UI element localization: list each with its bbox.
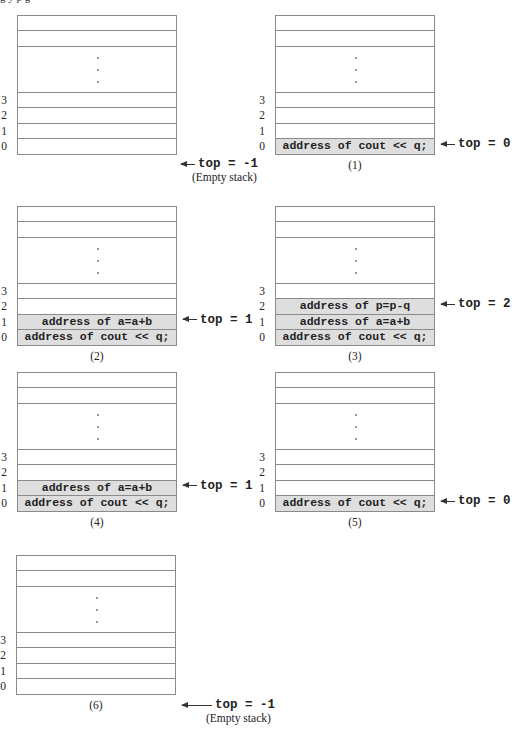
top-pointer: top = -1 [181,157,258,171]
row-index-label: 0 [257,496,267,511]
top-text-fragment: g y p g [0,0,512,3]
stack-cell-2 [18,465,176,480]
stack-cell-2 [18,108,176,123]
stack-cell-3 [17,633,175,648]
row-index-label: 0 [257,139,267,154]
stack-slot-top-1 [18,207,176,222]
ellipsis-dots-icon [276,404,434,450]
top-pointer: top = 0 [441,494,511,508]
top-pointer: top = -1 [182,698,275,712]
row-index-label: 3 [0,633,8,648]
row-index-label: 3 [257,284,267,299]
row-index-label: 1 [0,664,8,679]
top-value-label: top = -1 [215,698,275,712]
top-pointer: top = 1 [183,313,253,327]
empty-stack-note: (Empty stack) [192,171,257,183]
ellipsis-dots-icon [18,238,176,284]
stack-slot-top-2 [17,571,175,586]
stack-panel-1: address of cout << q; 3210(1)top = 0 [263,15,512,215]
row-index-label: 1 [0,124,9,139]
stack-slot-top-2 [276,31,434,46]
top-value-label: top = 1 [200,313,253,327]
stack-slot-top-2 [276,222,434,237]
stack-panel-4: address of a=a+b address of cout << q; 3… [5,372,265,572]
panel-caption: (1) [275,159,435,171]
panel-caption: (4) [17,516,177,528]
left-arrow-icon [441,144,455,145]
stack-cell-1 [276,124,434,139]
top-value-label: top = 0 [458,137,511,151]
stack-panel-6: 3210(6)(Empty stack)top = -1 [4,555,264,729]
stack-cell-1 [17,664,175,679]
ellipsis-dots-icon [18,47,176,93]
stack-slot-top-2 [18,31,176,46]
stack-cell-0: address of cout << q; [276,330,434,345]
stack-panel-5: address of cout << q; 3210(5)top = 0 [263,372,512,572]
top-value-label: top = 0 [458,494,511,508]
stack-slot-top-1 [18,373,176,388]
row-index-label: 3 [257,93,267,108]
row-index-label: 3 [0,450,9,465]
stack-box: address of a=a+b address of cout << q; [17,206,177,346]
left-arrow-icon [182,705,212,706]
row-index-label: 0 [257,330,267,345]
row-index-label: 0 [0,330,9,345]
stack-cell-3 [18,284,176,299]
row-index-label: 3 [257,450,267,465]
top-value-label: top = -1 [198,157,258,171]
panel-caption: (5) [275,516,435,528]
stack-cell-0: address of cout << q; [18,330,176,345]
stack-cell-2 [18,299,176,314]
stack-box: address of a=a+b address of cout << q; [17,372,177,512]
stack-cell-0 [18,139,176,154]
top-pointer: top = 0 [441,137,511,151]
stack-box: address of p=p-q address of a=a+b addres… [275,206,435,346]
empty-stack-note: (Empty stack) [206,712,271,724]
stack-slot-top-1 [276,373,434,388]
stack-cell-2: address of p=p-q [276,299,434,314]
stack-slot-top-1 [276,16,434,31]
top-value-label: top = 1 [200,479,253,493]
panel-caption: (3) [275,350,435,362]
stack-panel-initial: 3210(Empty stack)top = -1 [5,15,265,215]
stack-cell-2 [276,108,434,123]
stack-cell-1: address of a=a+b [18,481,176,496]
stack-cell-1: address of a=a+b [18,315,176,330]
stack-cell-3 [276,284,434,299]
stack-slot-top-1 [18,16,176,31]
left-arrow-icon [441,304,455,305]
top-pointer: top = 2 [441,297,511,311]
ellipsis-dots-icon [17,587,175,633]
stack-cell-1 [276,481,434,496]
stack-cell-1 [18,124,176,139]
stack-slot-top-2 [18,222,176,237]
stack-cell-3 [276,93,434,108]
row-index-label: 1 [257,315,267,330]
row-index-label: 0 [0,496,9,511]
row-index-label: 1 [257,481,267,496]
stack-cell-0: address of cout << q; [276,139,434,154]
stack-box [17,15,177,155]
stack-cell-1: address of a=a+b [276,315,434,330]
row-index-label: 2 [0,465,9,480]
stack-cell-0 [17,679,175,694]
row-index-label: 2 [0,648,8,663]
row-index-label: 0 [0,679,8,694]
row-index-label: 0 [0,139,9,154]
row-index-label: 1 [0,481,9,496]
row-index-label: 1 [257,124,267,139]
left-arrow-icon [441,501,455,502]
stack-cell-0: address of cout << q; [276,496,434,511]
top-pointer: top = 1 [183,479,253,493]
row-index-label: 2 [0,299,9,314]
stack-cell-0: address of cout << q; [18,496,176,511]
row-index-label: 2 [257,299,267,314]
stack-cell-3 [18,93,176,108]
stack-cell-2 [276,465,434,480]
ellipsis-dots-icon [276,238,434,284]
stack-cell-3 [276,450,434,465]
left-arrow-icon [183,319,197,320]
panel-caption: (6) [16,699,176,711]
stack-slot-top-1 [276,207,434,222]
row-index-label: 3 [0,284,9,299]
